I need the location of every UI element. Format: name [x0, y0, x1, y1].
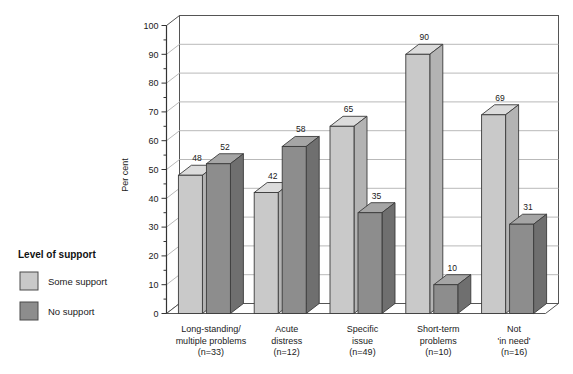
bar-front-face: [282, 146, 306, 313]
x-category-label: Not'in need'(n=16): [498, 324, 531, 357]
y-tick-label: 80: [148, 78, 158, 88]
bar-side-face: [534, 214, 547, 313]
bar-value-label: 90: [420, 32, 430, 42]
bar-value-label: 52: [220, 142, 230, 152]
y-tick-label: 30: [148, 222, 158, 232]
x-category-label: Long-standing/multiple problems(n=33): [176, 324, 247, 357]
bar-value-label: 35: [372, 191, 382, 201]
bar-no-support[interactable]: [358, 203, 395, 314]
x-axis-labels: Long-standing/multiple problems(n=33)Acu…: [176, 324, 531, 357]
bar-chart: 1009080706050403020100Per cent4842659069…: [0, 0, 573, 374]
y-tick-label: 40: [148, 194, 158, 204]
x-category-line: distress: [271, 336, 303, 346]
y-tick-label: 60: [148, 136, 158, 146]
y-axis-title: Per cent: [120, 158, 130, 192]
x-category-line: (n=16): [501, 347, 527, 357]
x-category-line: (n=12): [274, 347, 300, 357]
legend-swatch: [20, 302, 38, 320]
x-category-line: (n=33): [198, 347, 224, 357]
y-tick-label: 50: [148, 165, 158, 175]
bar-some-support[interactable]: [406, 44, 443, 313]
y-tick-label: 100: [143, 21, 158, 31]
bar-front-face: [330, 126, 354, 313]
x-category-line: (n=49): [349, 347, 375, 357]
bar-no-support[interactable]: [206, 154, 243, 314]
bar-value-label: 58: [296, 124, 306, 134]
y-tick-label: 0: [153, 309, 158, 319]
x-category-line: (n=10): [425, 347, 451, 357]
bar-side-face: [230, 154, 243, 314]
x-category-label: Short-termproblems(n=10): [417, 324, 460, 357]
x-category-line: multiple problems: [176, 336, 247, 346]
bar-front-face: [178, 175, 202, 313]
x-category-line: problems: [420, 336, 458, 346]
bar-no-support[interactable]: [282, 136, 319, 313]
bar-value-label: 10: [448, 263, 458, 273]
y-tick-label: 90: [148, 50, 158, 60]
legend-item[interactable]: Some support: [20, 272, 108, 290]
bar-no-support[interactable]: [510, 214, 547, 313]
x-category-line: Specific: [347, 324, 379, 334]
y-axis-ticks: 1009080706050403020100: [143, 21, 166, 319]
x-category-line: Not: [507, 324, 522, 334]
legend: Level of supportSome supportNo support: [18, 249, 108, 320]
bar-front-face: [206, 164, 230, 314]
y-tick-label: 70: [148, 107, 158, 117]
x-category-label: Specificissue(n=49): [347, 324, 379, 357]
x-category-line: Long-standing/: [181, 324, 241, 334]
y-tick-label: 20: [148, 251, 158, 261]
x-category-line: Short-term: [417, 324, 460, 334]
bar-value-label: 48: [192, 153, 202, 163]
bar-side-face: [382, 203, 395, 314]
bar-side-face: [306, 136, 319, 313]
bar-front-face: [254, 193, 278, 314]
bar-side-face: [430, 44, 443, 313]
bar-front-face: [482, 115, 506, 314]
x-category-label: Acutedistress(n=12): [271, 324, 303, 357]
bar-no-support[interactable]: [434, 275, 471, 314]
legend-item[interactable]: No support: [20, 302, 95, 320]
bar-front-face: [406, 54, 430, 313]
bar-value-label: 65: [344, 104, 354, 114]
chart-container: 1009080706050403020100Per cent4842659069…: [0, 0, 573, 374]
legend-swatch: [20, 272, 38, 290]
bar-front-face: [434, 285, 458, 314]
x-category-line: issue: [352, 336, 373, 346]
x-category-line: 'in need': [498, 336, 531, 346]
bar-value-label: 69: [495, 93, 505, 103]
x-category-line: Acute: [275, 324, 298, 334]
y-tick-label: 10: [148, 280, 158, 290]
legend-item-label: Some support: [48, 276, 108, 287]
bar-value-label: 42: [268, 171, 278, 181]
bar-front-face: [510, 224, 534, 313]
bar-front-face: [358, 213, 382, 314]
legend-item-label: No support: [48, 306, 95, 317]
bar-value-label: 31: [523, 202, 533, 212]
legend-title: Level of support: [18, 249, 96, 260]
